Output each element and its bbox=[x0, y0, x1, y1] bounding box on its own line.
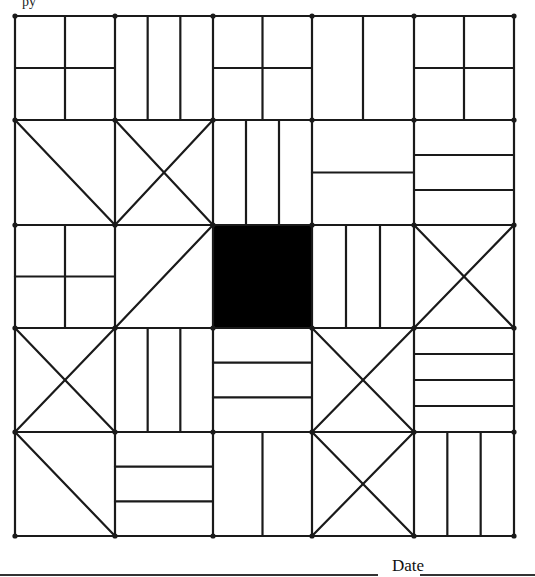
tile-quad bbox=[213, 16, 312, 120]
vertex-dot bbox=[112, 325, 117, 330]
vertex-dot bbox=[210, 325, 215, 330]
vertex-dot bbox=[511, 13, 516, 18]
vertex-dot bbox=[511, 222, 516, 227]
vertex-dot bbox=[210, 222, 215, 227]
tile-diag-down bbox=[15, 120, 115, 225]
tile-vertical-3 bbox=[447, 432, 480, 536]
tile-horizontal-4 bbox=[414, 354, 514, 406]
vertex-dot bbox=[210, 533, 215, 538]
vertex-dot bbox=[411, 222, 416, 227]
tile-vertical-3 bbox=[346, 225, 380, 328]
tile-horizontal-3 bbox=[414, 155, 514, 190]
vertex-dot bbox=[411, 13, 416, 18]
vertex-dot bbox=[309, 533, 314, 538]
tile-x bbox=[414, 225, 514, 328]
tile-diag-up bbox=[115, 225, 213, 328]
vertex-dot bbox=[309, 222, 314, 227]
vertex-dot bbox=[112, 13, 117, 18]
worksheet: py Date bbox=[0, 0, 535, 577]
tile-x bbox=[312, 432, 414, 536]
tile-x bbox=[115, 120, 213, 225]
date-line[interactable] bbox=[420, 574, 535, 576]
tile-vertical-3 bbox=[148, 16, 181, 120]
vertex-dot bbox=[112, 429, 117, 434]
vertex-dot bbox=[411, 325, 416, 330]
name-line[interactable] bbox=[0, 574, 378, 576]
vertex-dot bbox=[112, 117, 117, 122]
tile-horizontal-3 bbox=[213, 363, 312, 398]
tile-vertical-3 bbox=[148, 328, 181, 432]
tile-horizontal-3 bbox=[115, 467, 213, 502]
tile-quad bbox=[15, 225, 115, 328]
vertex-dot bbox=[12, 222, 17, 227]
tile-quad bbox=[414, 16, 514, 120]
vertex-dot bbox=[411, 117, 416, 122]
vertex-dot bbox=[309, 325, 314, 330]
tile-x bbox=[312, 328, 414, 432]
vertex-dot bbox=[12, 325, 17, 330]
tile-solid bbox=[213, 225, 312, 328]
vertex-dot bbox=[309, 117, 314, 122]
vertex-dot bbox=[210, 429, 215, 434]
vertex-dot bbox=[12, 117, 17, 122]
vertex-dot bbox=[12, 533, 17, 538]
tile-diag-down bbox=[15, 432, 115, 536]
vertex-dot bbox=[511, 117, 516, 122]
tile-vertical-3 bbox=[246, 120, 279, 225]
vertex-dot bbox=[12, 429, 17, 434]
vertex-dot bbox=[210, 13, 215, 18]
tile-x bbox=[15, 328, 115, 432]
vertex-dot bbox=[12, 13, 17, 18]
pattern-grid bbox=[0, 0, 535, 577]
date-label: Date bbox=[392, 557, 424, 575]
vertex-dot bbox=[309, 429, 314, 434]
vertex-dot bbox=[112, 533, 117, 538]
vertex-dot bbox=[511, 429, 516, 434]
tile-quad bbox=[15, 16, 115, 120]
vertex-dot bbox=[411, 429, 416, 434]
vertex-dot bbox=[309, 13, 314, 18]
vertex-dot bbox=[511, 533, 516, 538]
vertex-dot bbox=[511, 325, 516, 330]
vertex-dot bbox=[411, 533, 416, 538]
vertex-dot bbox=[112, 222, 117, 227]
vertex-dot bbox=[210, 117, 215, 122]
